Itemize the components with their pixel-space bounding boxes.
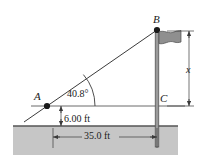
point-label-C: C <box>160 92 167 104</box>
dimension-label-x: x <box>186 64 190 75</box>
line-of-sight-AB <box>24 30 157 122</box>
dimension-label-height: 6.00 ft <box>64 113 90 124</box>
dimension-label-angle: 40.8° <box>67 88 89 99</box>
dimension-label-base: 35.0 ft <box>84 130 110 141</box>
point-label-A: A <box>34 90 41 102</box>
point-A-marker <box>44 103 50 109</box>
point-label-B: B <box>153 13 160 25</box>
flag <box>159 31 181 44</box>
figure-canvas: A B C x 40.8° 6.00 ft 35.0 ft <box>0 0 209 164</box>
